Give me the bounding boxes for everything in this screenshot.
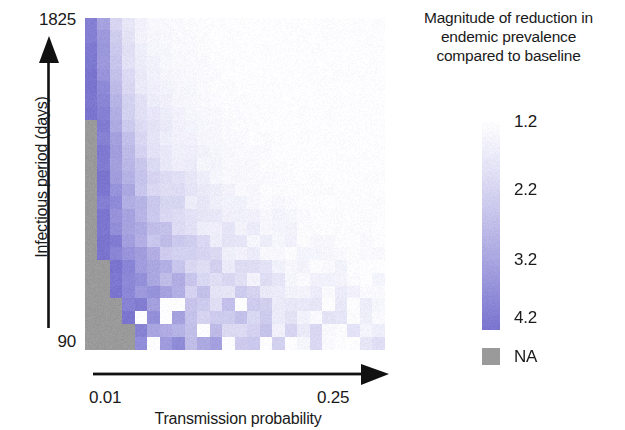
na-color-swatch [482,348,500,365]
na-label: NA [514,347,537,366]
legend-title-line-3: compared to baseline [392,46,625,65]
colorbar-tick-2: 2.2 [514,180,537,199]
colorbar-tick-4: 4.2 [514,308,537,327]
y-axis-title: Infectious period (days) [33,47,51,307]
y-axis-min-label: 90 [18,332,76,351]
colorbar-tick-3: 3.2 [514,250,537,269]
legend-title: Magnitude of reduction in endemic preval… [392,8,625,65]
heatmap-canvas [85,18,385,350]
y-axis-max-label: 1825 [18,10,76,29]
y-axis: 1825 90 Infectious period (days) [0,0,85,370]
legend: Magnitude of reduction in endemic preval… [392,0,625,400]
colorbar [482,122,500,330]
x-axis-max-label: 0.25 [317,388,349,408]
x-axis-title: Transmission probability [85,410,391,428]
legend-title-line-2: endemic prevalence [392,27,625,46]
colorbar-tick-1: 1.2 [514,112,537,131]
heatmap-plot-area [85,18,385,350]
x-axis: 0.01 0.25 Transmission probability [85,358,395,430]
colorbar-gradient [482,122,500,330]
x-axis-min-label: 0.01 [89,388,121,408]
right-arrow-icon [93,364,389,386]
legend-title-line-1: Magnitude of reduction in [392,8,625,27]
